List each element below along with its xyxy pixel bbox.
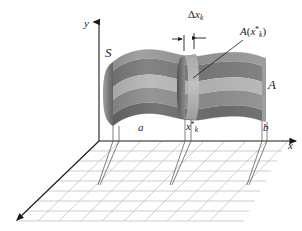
delta-subscript: k	[200, 13, 203, 22]
delta-x-measure	[172, 33, 206, 51]
solid-body	[103, 49, 266, 126]
area-fn-close-paren: )	[262, 25, 266, 37]
projection-lines	[98, 119, 267, 185]
sample-point-star: *	[191, 120, 195, 129]
delta-x-label: Δxk	[188, 9, 203, 22]
solid-cross-section-figure: y x S A a b x*k Δxk A(x*k)	[0, 0, 302, 231]
area-face-label: A	[268, 78, 276, 91]
cross-section-area-label: A(x*k)	[240, 26, 266, 39]
solid-label: S	[105, 46, 112, 59]
solid-right-face	[262, 57, 266, 122]
right-bound-label: b	[263, 122, 269, 133]
sample-point-subscript: k	[195, 125, 198, 134]
z-axis	[17, 141, 99, 220]
area-fn-name: A	[240, 25, 247, 37]
sample-point-label: x*k	[186, 121, 198, 134]
y-axis-label: y	[84, 18, 89, 29]
x-axis-label: x	[288, 140, 293, 151]
left-bound-label: a	[138, 122, 144, 133]
